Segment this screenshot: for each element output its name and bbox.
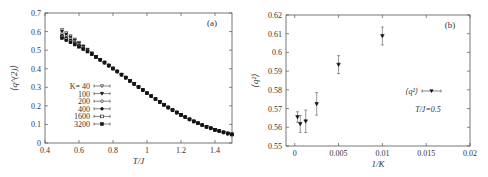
y-axis-label: ⟨q^(2)⟩: [9, 65, 19, 91]
data-point-k3200: [82, 48, 85, 51]
y-tick-label: 0.7: [31, 9, 41, 18]
data-point-k3200: [120, 73, 123, 76]
data-point-k3200: [146, 92, 149, 95]
data-point-k3200: [69, 41, 72, 44]
y-tick-label: 0.57: [268, 105, 282, 114]
y-tick-label: 0.1: [31, 120, 41, 129]
y-tick-label: 0.56: [268, 123, 282, 132]
x-tick-label: 0.015: [417, 149, 435, 158]
data-point: [337, 63, 341, 66]
legend-marker: [101, 107, 104, 110]
x-axis-label: 1/K: [371, 159, 385, 169]
annotation-temperature: T/J=0.5: [415, 105, 441, 114]
data-point-k3200: [124, 76, 127, 79]
y-tick-label: 0.2: [31, 102, 41, 111]
data-point-k3200: [201, 124, 204, 127]
legend-marker: [101, 115, 104, 118]
x-tick-label: 0.02: [463, 149, 477, 158]
x-tick-label: 1: [145, 146, 149, 155]
data-point-k3200: [137, 86, 140, 89]
data-point-k3200: [154, 98, 157, 101]
y-tick-label: 0.55: [268, 142, 282, 151]
data-point-k3200: [86, 50, 89, 53]
x-tick-label: 0.8: [108, 146, 118, 155]
x-tick-label: 0.6: [74, 146, 84, 155]
data-point-k3200: [188, 118, 191, 121]
figure: 0.40.60.811.21.400.10.20.30.40.50.60.7T/…: [0, 0, 488, 177]
legend-marker: [100, 85, 103, 88]
data-point-k3200: [214, 128, 217, 131]
y-tick-label: 0.61: [268, 30, 282, 39]
legend-label: 3200: [74, 120, 90, 129]
legend: ⟨q²⟩: [405, 87, 441, 96]
data-point-k3200: [73, 43, 76, 46]
data-point-k3200: [107, 64, 110, 67]
panel-label: (a): [207, 18, 217, 28]
panel-a: 0.40.60.811.21.400.10.20.30.40.50.60.7T/…: [9, 9, 234, 166]
plot-frame: [286, 15, 470, 146]
data-point: [315, 102, 319, 105]
data-point-k3200: [99, 58, 102, 61]
data-point-k3200: [112, 67, 115, 70]
data-point-k3200: [222, 131, 225, 134]
legend-marker: [100, 92, 103, 95]
x-tick-label: 1.4: [210, 146, 220, 155]
data-point-k3200: [90, 53, 93, 56]
data-point-k3200: [116, 70, 119, 73]
legend-label: ⟨q²⟩: [405, 87, 418, 96]
data-point-k3200: [103, 61, 106, 64]
y-tick-label: 0.6: [272, 48, 282, 57]
data-point-k3200: [205, 125, 208, 128]
data-point-k3200: [184, 116, 187, 119]
data-point: [304, 120, 308, 123]
data-point-k3200: [197, 122, 200, 125]
data-point-k3200: [180, 114, 183, 117]
legend-marker: [430, 90, 433, 93]
data-point-k3200: [175, 111, 178, 114]
y-tick-label: 0: [37, 139, 41, 148]
data-point-k3200: [141, 89, 144, 92]
series-points: [296, 27, 384, 133]
data-point-k3200: [171, 109, 174, 112]
panel-label: (b): [445, 20, 456, 30]
y-tick-label: 0.3: [31, 83, 41, 92]
data-point-k3200: [163, 103, 166, 106]
data-point-k3200: [192, 120, 195, 123]
data-point-k3200: [226, 132, 229, 135]
data-point-k3200: [231, 133, 234, 136]
data-point-k3200: [150, 95, 153, 98]
data-point-k3200: [95, 56, 98, 59]
data-point-k3200: [65, 39, 68, 42]
data-point-k3200: [158, 101, 161, 104]
legend-marker: [101, 100, 104, 103]
data-point-k3200: [209, 127, 212, 130]
legend: K= 4010020040016003200: [70, 82, 110, 129]
y-tick-label: 0.59: [268, 67, 282, 76]
x-tick-label: 0.005: [330, 149, 348, 158]
data-point: [298, 122, 302, 125]
y-tick-label: 0.4: [31, 65, 41, 74]
x-axis-label: T/J: [133, 156, 146, 166]
x-tick-label: 0: [293, 149, 297, 158]
x-tick-label: 0.01: [375, 149, 389, 158]
y-axis-label: ⟨q²⟩: [250, 73, 260, 87]
data-point-k3200: [78, 45, 81, 48]
legend-marker: [101, 123, 104, 126]
y-tick-label: 0.62: [268, 11, 282, 20]
data-point-k3200: [61, 37, 64, 40]
data-point: [381, 35, 385, 38]
y-tick-label: 0.6: [31, 28, 41, 37]
data-point-k3200: [129, 79, 132, 82]
data-point-k3200: [218, 130, 221, 133]
data-point-k3200: [167, 106, 170, 109]
x-tick-label: 1.2: [176, 146, 186, 155]
y-tick-label: 0.5: [31, 46, 41, 55]
panel-b: 00.0050.010.0150.020.550.560.570.580.590…: [250, 11, 477, 169]
data-point: [296, 116, 300, 119]
x-tick-label: 0.4: [40, 146, 50, 155]
data-point-k3200: [133, 83, 136, 86]
y-tick-label: 0.58: [268, 86, 282, 95]
